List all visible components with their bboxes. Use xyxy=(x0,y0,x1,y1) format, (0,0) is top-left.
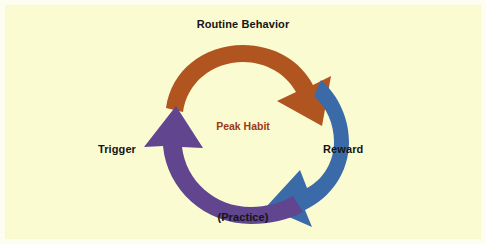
label-peak-habit-center: Peak Habit xyxy=(0,121,486,132)
label-trigger: Trigger xyxy=(98,144,136,155)
label-routine-behavior: Routine Behavior xyxy=(0,19,486,30)
routine-behavior-arrow xyxy=(166,45,331,126)
diagram-canvas: Routine Behavior Trigger Reward (Practic… xyxy=(0,0,486,244)
label-reward: Reward xyxy=(323,144,363,155)
label-practice: (Practice) xyxy=(0,212,486,223)
